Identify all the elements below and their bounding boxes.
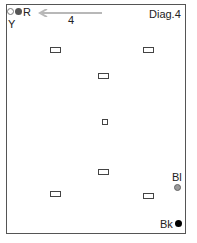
label-bk: Bk: [160, 218, 173, 230]
label-r: R: [23, 6, 31, 18]
diagram-title: Diag.4: [149, 8, 181, 20]
label-bl: Bl: [172, 171, 182, 183]
dark-circle-icon: [15, 8, 22, 15]
diagram-frame: [6, 4, 186, 234]
rect-marker: [50, 47, 61, 53]
label-y: Y: [8, 18, 15, 30]
rect-marker: [143, 47, 154, 53]
rect-marker: [143, 193, 154, 199]
gray-dot-icon: [174, 184, 181, 191]
rect-marker: [98, 169, 109, 175]
rect-marker: [50, 191, 61, 197]
square-marker: [102, 119, 108, 125]
black-dot-icon: [175, 220, 182, 227]
number-label: 4: [68, 14, 74, 26]
gray-circle-icon: [7, 8, 14, 15]
rect-marker: [98, 73, 109, 79]
